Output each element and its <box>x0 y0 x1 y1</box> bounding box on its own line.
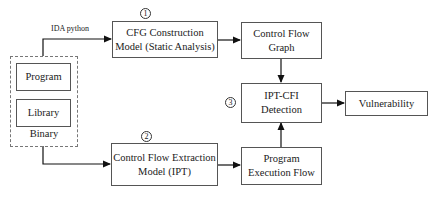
control-flow-graph-node: Control Flow Graph <box>241 22 322 59</box>
cfg-construction-node: CFG Construction Model (Static Analysis) <box>112 21 218 58</box>
exec-flow-node: Program Execution Flow <box>241 147 322 185</box>
cfg-graph-line1: Control Flow <box>253 27 309 41</box>
cfg-graph-line2: Graph <box>268 41 294 55</box>
exec-flow-line1: Program <box>263 152 299 166</box>
binary-label: Binary <box>10 128 78 139</box>
marker-3: 3 <box>225 97 236 108</box>
cf-extraction-node: Control Flow Extraction Model (IPT) <box>111 143 218 186</box>
cf-extraction-line2: Model (IPT) <box>138 165 191 179</box>
exec-flow-line2: Execution Flow <box>248 166 315 180</box>
ipt-cfi-line2: Detection <box>261 103 302 117</box>
program-label: Program <box>25 70 61 84</box>
vulnerability-node: Vulnerability <box>345 91 428 116</box>
ida-python-label: IDA python <box>51 24 89 33</box>
library-node: Library <box>16 99 71 127</box>
cfg-construction-line1: CFG Construction <box>126 26 203 40</box>
cf-extraction-line1: Control Flow Extraction <box>113 151 216 165</box>
ipt-cfi-node: IPT-CFI Detection <box>241 83 322 123</box>
marker-2: 2 <box>141 131 152 142</box>
vulnerability-label: Vulnerability <box>359 97 414 111</box>
library-label: Library <box>28 106 60 120</box>
program-node: Program <box>16 63 71 91</box>
ipt-cfi-line1: IPT-CFI <box>264 89 299 103</box>
marker-1: 1 <box>140 8 151 19</box>
cfg-construction-line2: Model (Static Analysis) <box>115 40 215 54</box>
